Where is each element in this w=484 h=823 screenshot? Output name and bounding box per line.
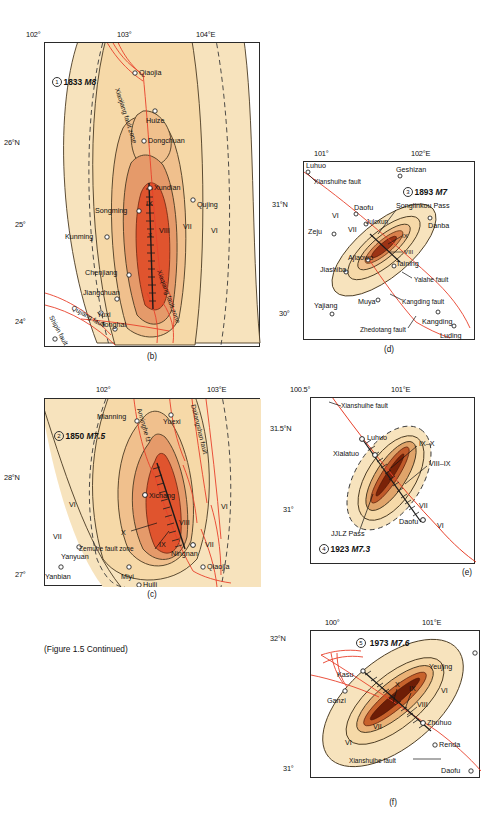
panel-d-map: Luhuo Geshizan Daofu Juloxun Danba Zeju … (304, 162, 476, 341)
place-label: Zeju (308, 227, 322, 236)
intensity-label: VIII (159, 226, 170, 235)
place-label: Daofu (399, 517, 418, 526)
place-label: Xundian (154, 183, 180, 192)
event-number: 5 (356, 638, 366, 648)
panel-d-top-tick-0: 101° (314, 149, 329, 158)
panel-b-top-tick-1: 103° (117, 30, 132, 39)
place-label: Kangding (422, 317, 452, 326)
place-label: Taining (396, 259, 419, 268)
event-magnitude: M7 (435, 187, 447, 197)
fault-label: Xianshuihe fault (349, 757, 396, 764)
panel-d-frame: Luhuo Geshizan Daofu Juloxun Danba Zeju … (303, 161, 475, 340)
place-label: Dongchuan (148, 136, 185, 145)
panel-b-caption: (b) (132, 352, 172, 361)
fault-label: Zhedotang fault (360, 326, 406, 334)
place-label: Songming (95, 206, 127, 215)
panel-d-left-tick-1: 30° (279, 309, 290, 318)
place-label: Huize (146, 116, 164, 125)
intensity-label: VIII–IX (429, 459, 451, 468)
intensity-label: IX (402, 232, 408, 239)
event-number: 2 (54, 431, 64, 441)
fault-label: Shipin fault (47, 314, 69, 347)
panel-f-frame: Kasu Ganzi Yeujing Zhuhuo Renda Daofu X (310, 630, 480, 778)
place-label: Yuexi (163, 417, 181, 426)
panel-c-top-tick-1: 103°E (207, 385, 226, 394)
intensity-label: VI (69, 500, 76, 509)
place-label: Miyi (121, 572, 134, 581)
svg-text:VI: VI (221, 502, 228, 511)
place-label: Zhuhuo (427, 718, 451, 727)
intensity-label: IX–X (419, 439, 435, 448)
panel-d-caption: (d) (369, 345, 409, 354)
event-year: 1850 (66, 431, 85, 441)
event-magnitude: M7.5 (86, 431, 105, 441)
place-label: Danba (428, 221, 449, 230)
panel-e: 100.5° 101°E 31.5°N 31° (270, 380, 484, 600)
place-label: Ningnan (171, 549, 198, 558)
event-magnitude: M7.3 (351, 544, 370, 554)
place-label: Ajiaowo (348, 253, 373, 262)
panel-f-top-tick-1: 101°E (422, 618, 441, 627)
place-label: Kasu (337, 670, 353, 679)
panel-f-map: Kasu Ganzi Yeujing Zhuhuo Renda Daofu X (311, 631, 481, 779)
intensity-label: X (121, 528, 126, 537)
place-label: Qiaojia (139, 68, 161, 77)
place-label: Yajiang (314, 301, 337, 310)
panel-f: 100° 101°E 32°N 31° (270, 600, 484, 823)
panel-b-left-tick-1: 25° (15, 220, 26, 229)
panel-c-caption: (c) (132, 590, 172, 599)
svg-text:VII: VII (53, 532, 62, 541)
fault-label: Xianshuihe fault (314, 178, 361, 185)
event-number: 1 (52, 77, 62, 87)
event-magnitude: M7.6 (391, 638, 410, 648)
event-year: 1923 (331, 544, 350, 554)
place-label: Kunming (65, 232, 93, 241)
intensity-label: IX (146, 199, 153, 208)
panel-b-left-tick-0: 26°N (4, 138, 20, 147)
panel-c-left-tick-0: 28°N (4, 473, 20, 482)
panel-f-event-label: 5 1973 M7.6 (356, 638, 409, 648)
place-label: Luhuo (367, 433, 387, 442)
intensity-label: VI (211, 226, 218, 235)
place-label: Xialatuo (333, 449, 359, 458)
panel-b-top-tick-2: 104°E (196, 30, 215, 39)
panel-b-top-tick-0: 102° (26, 30, 41, 39)
fault-label: Xianshuihe fault (341, 402, 388, 409)
panel-e-left-tick-0: 31.5°N (270, 424, 291, 433)
intensity-label: VII (373, 722, 382, 731)
place-label: Yanbian (45, 572, 71, 581)
fault-label: Kangding fault (402, 298, 444, 306)
place-label: Xichang (149, 491, 175, 500)
panel-e-map: Luhuo Xialatuo Daofu JJLZ Pass IX–X VIII… (311, 398, 476, 565)
panel-f-top-tick-0: 100° (325, 618, 340, 627)
event-year: 1973 (370, 638, 389, 648)
intensity-label: IX (409, 684, 416, 693)
panel-d-left-tick-0: 31°N (272, 200, 288, 209)
intensity-label: VI (441, 686, 448, 695)
place-label: Muya (358, 297, 376, 306)
intensity-label: VI (332, 211, 339, 220)
place-label: Huili (143, 580, 157, 589)
place-label: Yeujing (429, 662, 452, 671)
place-label: Luhuo (306, 161, 326, 170)
intensity-label: VIII (417, 700, 428, 709)
panel-d: 101° 102°E 31°N 30° (270, 140, 484, 372)
panel-c-event-label: 21850 M7.5 (54, 431, 105, 441)
panel-f-left-tick-1: 31° (283, 764, 294, 773)
place-label: Luding (440, 331, 462, 340)
place-label: Daofu (354, 203, 373, 212)
intensity-label: X (148, 231, 152, 238)
panel-c-map: Mianning Yuexi Xichang Yanyuan Ningnan Q… (45, 399, 261, 587)
place-label: Jiashiba (320, 265, 346, 274)
panel-f-caption: (f) (373, 798, 413, 807)
svg-text:VI: VI (345, 738, 352, 747)
panel-b-map: Qiaojia Huize Dongchuan Xundian Qujing S… (45, 43, 261, 348)
panel-b: 102° 103° 104°E 26°N 25° 24° (0, 0, 272, 380)
panel-b-frame: Qiaojia Huize Dongchuan Xundian Qujing S… (44, 42, 260, 347)
place-label: Geshizan (396, 165, 426, 174)
panel-c-top-tick-0: 102° (96, 385, 111, 394)
place-label: Qiaojia (207, 562, 229, 571)
figure-caption: (Figure 1.5 Continued) (44, 644, 128, 654)
panel-b-left-tick-2: 24° (15, 317, 26, 326)
intensity-label: VII (205, 540, 214, 549)
